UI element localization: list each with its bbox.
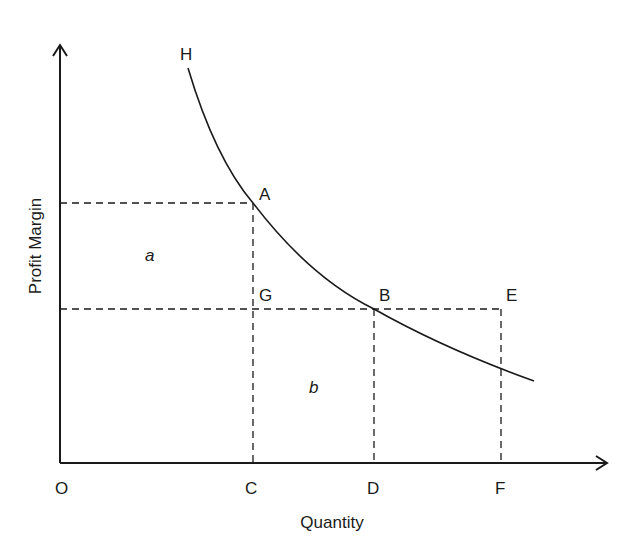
profit-margin-quantity-diagram: H A G B E a b O C D F Quantity Profit Ma… <box>0 0 629 554</box>
origin-label-o: O <box>55 479 68 498</box>
dashed-guides <box>60 203 501 463</box>
x-tick-label-c: C <box>245 479 257 498</box>
x-tick-label-d: D <box>367 479 379 498</box>
point-label-g: G <box>259 286 272 305</box>
x-tick-label-f: F <box>495 479 505 498</box>
x-axis <box>60 456 607 470</box>
point-label-a: A <box>259 185 271 204</box>
y-axis-title: Profit Margin <box>26 198 45 294</box>
x-axis-title: Quantity <box>300 513 364 532</box>
point-label-b: B <box>379 286 390 305</box>
curve-label-h: H <box>180 45 192 64</box>
curve-h <box>188 68 534 381</box>
point-label-e: E <box>506 286 517 305</box>
region-label-a: a <box>145 246 154 265</box>
region-label-b: b <box>309 378 318 397</box>
y-axis <box>53 45 67 463</box>
